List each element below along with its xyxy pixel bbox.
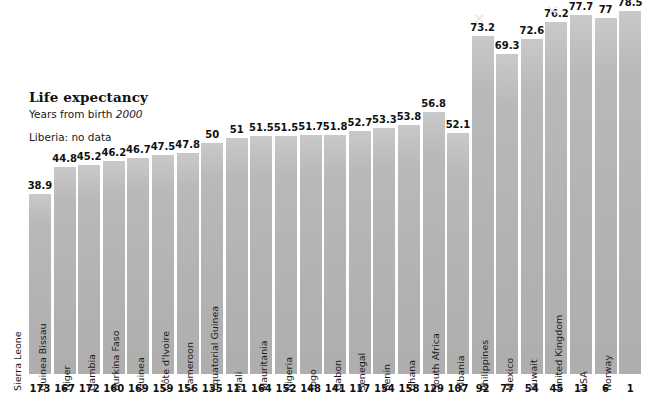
bar-category-label: Côte d'Ivoire <box>155 273 177 393</box>
bar-category-label: Nigeria <box>278 273 300 393</box>
bar-value-label: 78.5 <box>612 0 648 8</box>
bar-rank-label: 1 <box>612 383 648 394</box>
bar-category-label: Guinea <box>130 273 152 393</box>
bar-value-label: 53.8 <box>391 111 427 122</box>
bar-category-label: Burkina Faso <box>105 273 127 393</box>
bar-category-label: Equatorial Guinea <box>204 273 226 393</box>
life-expectancy-chart: 38.9Sierra Leone17344.8Guinea Bissau1674… <box>0 0 649 412</box>
bar-category-label: Mexico <box>499 273 521 393</box>
bar-value-label: 38.9 <box>22 180 58 191</box>
chart-subtitle-year: 2000 <box>116 108 143 120</box>
bar-category-label: Ghana <box>401 273 423 393</box>
no-data-note: Liberia: no data <box>29 131 112 143</box>
bar-category-label: Guinea Bissau <box>32 273 54 393</box>
bar-value-label: 52.1 <box>440 119 476 130</box>
bar-category-label: USA <box>573 273 595 393</box>
bar-category-label: Kuwait <box>523 273 545 393</box>
bar-category-label: Sierra Leone <box>7 273 29 393</box>
page-title: Life expectancy <box>29 90 279 106</box>
bar-category-label: Togo <box>302 273 324 393</box>
bar-category-label: Niger <box>56 273 78 393</box>
bar[interactable] <box>619 11 641 374</box>
bar-category-label: Philippines <box>474 273 496 393</box>
bar-value-label: 72.6 <box>514 25 550 36</box>
bar-value-label: 47.8 <box>170 139 206 150</box>
crop-mark-icon: ✕ <box>546 2 559 20</box>
bar-category-label: Cameroon <box>179 273 201 393</box>
bar-column[interactable]: 78.5Norway1 <box>619 0 641 412</box>
chart-subtitle: Years from birth 2000 <box>29 108 279 121</box>
bar-category-label: United Kingdom <box>548 273 570 393</box>
bar-category-label: Senegal <box>351 273 373 393</box>
bar-category-label: Gambia <box>81 273 103 393</box>
plot-area: 38.9Sierra Leone17344.8Guinea Bissau1674… <box>0 0 649 412</box>
bar-category-label: Mauritania <box>253 273 275 393</box>
bar-value-label: 69.3 <box>489 40 525 51</box>
bar-category-label: Gabon <box>327 273 349 393</box>
bar-category-label: Benin <box>376 273 398 393</box>
bar-category-label: South Africa <box>425 273 447 393</box>
title-block: Life expectancy Years from birth 2000 <box>29 90 279 120</box>
bar-category-label: Albania <box>450 273 472 393</box>
crop-mark-icon: ✕ <box>473 10 486 28</box>
bar-category-label: Mali <box>228 273 250 393</box>
chart-subtitle-text: Years from birth <box>29 108 116 120</box>
bar-category-label: Norway <box>597 273 619 393</box>
